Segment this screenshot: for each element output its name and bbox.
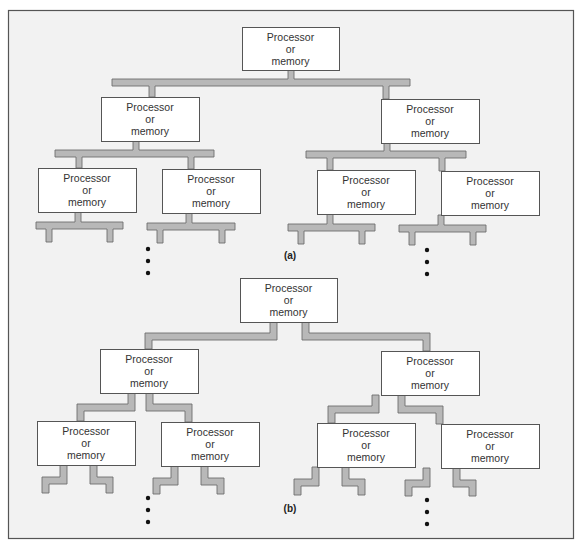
node-label-line: or <box>361 186 371 198</box>
processor-or-memory-node: Processorormemory <box>382 352 480 396</box>
ellipsis-dot <box>146 496 150 500</box>
node-label-line: or <box>485 440 495 452</box>
node-label-line: memory <box>471 452 510 464</box>
node-label-line: or <box>425 367 435 379</box>
processor-or-memory-node: Processorormemory <box>162 423 260 467</box>
ellipsis-dot <box>146 508 150 512</box>
node-label-line: Processor <box>186 426 234 438</box>
node-label-line: or <box>485 187 495 199</box>
node-label-line: memory <box>192 197 231 209</box>
node-label-line: memory <box>272 55 311 67</box>
node-label-line: memory <box>68 196 107 208</box>
node-label-line: Processor <box>62 425 110 437</box>
node-label-line: memory <box>130 377 169 389</box>
processor-or-memory-node: Processorormemory <box>382 100 480 144</box>
multiprocessor-tree-diagram: ProcessorormemoryProcessorormemoryProces… <box>0 0 580 545</box>
panel-caption-a: (a) <box>284 250 296 261</box>
node-label-line: Processor <box>126 101 174 113</box>
node-label-line: Processor <box>265 282 313 294</box>
node-label-line: memory <box>67 449 106 461</box>
node-label-line: memory <box>131 125 170 137</box>
ellipsis-dot <box>146 247 150 251</box>
node-label-line: Processor <box>342 427 390 439</box>
node-label-line: or <box>284 294 294 306</box>
node-label-line: or <box>81 437 91 449</box>
processor-or-memory-node: Processorormemory <box>442 425 540 469</box>
processor-or-memory-node: Processorormemory <box>318 424 416 468</box>
node-label-line: Processor <box>125 353 173 365</box>
node-label-line: Processor <box>267 31 315 43</box>
node-label-line: or <box>361 439 371 451</box>
node-label-line: Processor <box>187 173 235 185</box>
node-label-line: memory <box>270 306 309 318</box>
processor-or-memory-node: Processorormemory <box>101 350 199 394</box>
node-label-line: or <box>144 365 154 377</box>
node-label-line: or <box>206 185 216 197</box>
node-label-line: or <box>205 438 215 450</box>
node-label-line: memory <box>411 379 450 391</box>
processor-or-memory-node: Processorormemory <box>163 170 261 214</box>
ellipsis-dot <box>425 510 429 514</box>
node-label-line: memory <box>347 198 386 210</box>
node-label-line: or <box>286 43 296 55</box>
node-label-line: Processor <box>63 172 111 184</box>
node-label-line: Processor <box>406 103 454 115</box>
node-label-line: Processor <box>342 174 390 186</box>
processor-or-memory-node: Processorormemory <box>39 169 137 213</box>
node-label-line: memory <box>411 127 450 139</box>
ellipsis-dot <box>425 260 429 264</box>
node-label-line: memory <box>471 199 510 211</box>
panel-caption-b: (b) <box>284 503 297 514</box>
processor-or-memory-node: Processorormemory <box>102 98 200 142</box>
node-label-line: Processor <box>406 355 454 367</box>
ellipsis-dot <box>425 522 429 526</box>
ellipsis-dot <box>425 498 429 502</box>
processor-or-memory-node: Processorormemory <box>38 422 136 466</box>
ellipsis-dot <box>146 259 150 263</box>
processor-or-memory-node: Processorormemory <box>241 279 338 323</box>
ellipsis-dot <box>146 520 150 524</box>
node-label-line: or <box>82 184 92 196</box>
processor-or-memory-node: Processorormemory <box>442 172 540 216</box>
node-label-line: Processor <box>466 428 514 440</box>
ellipsis-dot <box>425 248 429 252</box>
node-label-line: or <box>425 115 435 127</box>
ellipsis-dot <box>146 271 150 275</box>
node-label-line: Processor <box>466 175 514 187</box>
processor-or-memory-node: Processorormemory <box>318 171 416 215</box>
ellipsis-dot <box>425 272 429 276</box>
node-label-line: or <box>145 113 155 125</box>
node-label-line: memory <box>191 450 230 462</box>
node-label-line: memory <box>347 451 386 463</box>
processor-or-memory-node: Processorormemory <box>243 28 340 71</box>
